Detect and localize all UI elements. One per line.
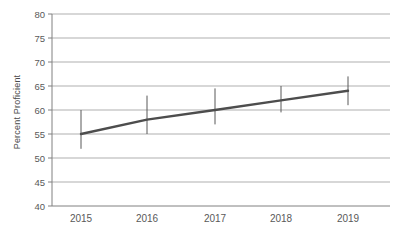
y-tick-label-45: 45: [34, 177, 45, 188]
y-tick-labels: 80 75 70 65 60 55 50 45 40: [34, 9, 45, 212]
y-tick-label-60: 60: [34, 105, 45, 116]
x-tick-label-2016: 2016: [136, 213, 159, 224]
x-tick-label-2018: 2018: [270, 213, 293, 224]
y-axis-title: Percent Proficient: [12, 74, 22, 149]
y-tick-label-50: 50: [34, 153, 45, 164]
y-tick-label-75: 75: [34, 33, 45, 44]
y-tick-label-65: 65: [34, 81, 45, 92]
chart-container: Percent Proficient: [0, 0, 396, 244]
x-tick-label-2015: 2015: [70, 213, 93, 224]
chart-background: [0, 0, 396, 244]
x-tick-label-2019: 2019: [337, 213, 360, 224]
y-tick-label-40: 40: [34, 201, 45, 212]
line-chart: Percent Proficient: [0, 0, 396, 244]
x-tick-label-2017: 2017: [204, 213, 227, 224]
y-tick-label-80: 80: [34, 9, 45, 20]
y-tick-label-70: 70: [34, 57, 45, 68]
y-tick-label-55: 55: [34, 129, 45, 140]
